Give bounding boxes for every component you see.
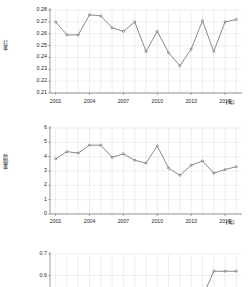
y-tick-label: 4 xyxy=(16,154,47,159)
x-tick-label: 2001 xyxy=(50,99,62,104)
y-tick-label: 0.24 xyxy=(16,55,47,60)
chart-3-canvas xyxy=(0,232,249,287)
y-tick-label: 0.25 xyxy=(16,43,47,48)
y-tick-label: 0.28 xyxy=(16,7,47,12)
x-tick-label: 2001 xyxy=(50,219,62,224)
x-tick-label: 2007 xyxy=(118,219,130,224)
chart-batting-average: 打率 0.280.270.260.250.240.230.220.21 2001… xyxy=(0,0,249,110)
y-tick-label: 5 xyxy=(16,140,47,145)
chart-1-plot-area: 打率 0.280.270.260.250.240.230.220.21 2001… xyxy=(0,0,249,110)
y-tick-label: 2 xyxy=(16,183,47,188)
x-tick-label: 2010 xyxy=(152,99,164,104)
chart-third-partial: 0.70.60.5 xyxy=(0,232,249,287)
x-tick-label: 2013 xyxy=(185,99,197,104)
y-tick-label: 1 xyxy=(16,197,47,202)
y-tick-label: 0.7 xyxy=(16,251,47,256)
y-tick-label: 3 xyxy=(16,168,47,173)
y-tick-label: 0.22 xyxy=(16,78,47,83)
x-tick-label: 2004 xyxy=(84,219,96,224)
chart-2-plot-area: 防御率 6543210 200120042007201020132016 (年) xyxy=(0,110,249,232)
y-tick-label: 0.23 xyxy=(16,67,47,72)
x-tick-label: 2007 xyxy=(118,99,130,104)
x-tick-label: 2013 xyxy=(185,219,197,224)
x-tick-label: 2010 xyxy=(152,219,164,224)
y-tick-label: 0 xyxy=(16,211,47,216)
y-tick-label: 6 xyxy=(16,125,47,130)
x-tick-label: 2004 xyxy=(84,99,96,104)
y-tick-label: 0.6 xyxy=(16,273,47,278)
chart-earned-run-average: 防御率 6543210 200120042007201020132016 (年) xyxy=(0,110,249,232)
chart-3-plot-area: 0.70.60.5 xyxy=(0,232,249,287)
y-tick-label: 0.27 xyxy=(16,19,47,24)
y-tick-label: 0.26 xyxy=(16,31,47,36)
chart-2-x-axis-unit: (年) xyxy=(226,220,234,225)
y-tick-label: 0.21 xyxy=(16,90,47,95)
chart-1-x-axis-unit: (年) xyxy=(226,100,234,105)
